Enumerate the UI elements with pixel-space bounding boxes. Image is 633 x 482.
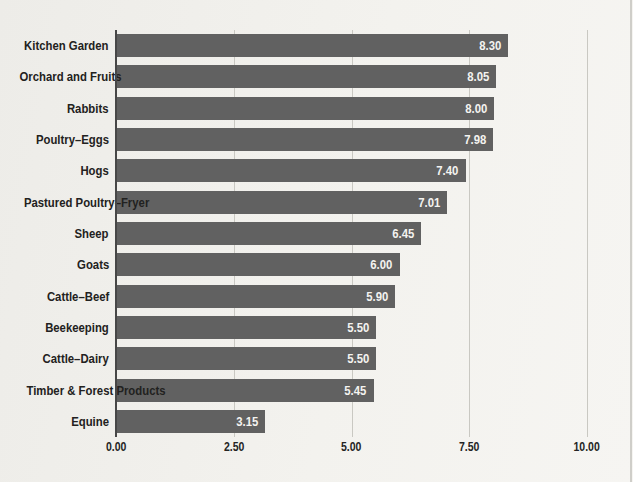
bar-value-label: 8.30 (475, 38, 508, 53)
category-label-text: Poultry–Eggs (36, 132, 109, 147)
bar-row: Hogs7.40 (0, 155, 633, 186)
category-label: Kitchen Garden (0, 38, 117, 53)
bar-row: Cattle–Dairy5.50 (0, 343, 633, 374)
bar-value-label: 8.00 (461, 101, 494, 116)
category-label-text: Cattle–Dairy (43, 351, 109, 366)
bar-row: Beekeeping5.50 (0, 312, 633, 343)
category-label: Equine (0, 414, 117, 429)
bar-value-text: 6.00 (371, 257, 393, 272)
bar-value-text: 5.45 (345, 383, 367, 398)
category-label-text: Timber & Forest Products (26, 383, 165, 398)
bar-chart: Kitchen Garden8.30Orchard and Fruits8.05… (0, 0, 633, 482)
bar-value-text: 5.90 (366, 289, 388, 304)
bar-row: Timber & Forest Products5.45 (0, 374, 633, 405)
bar-row: Goats6.00 (0, 249, 633, 280)
category-label-text: Cattle–Beef (47, 289, 109, 304)
category-label: Cattle–Beef (0, 289, 117, 304)
bar: 7.01 (117, 191, 447, 214)
category-label-text: Orchard and Fruits (19, 69, 121, 84)
bar-value-label: 7.01 (414, 195, 447, 210)
x-tick-label-text: 0.00 (106, 440, 126, 454)
bar-value-label: 5.50 (343, 351, 376, 366)
bar-row: Orchard and Fruits8.05 (0, 61, 633, 92)
category-label-text: Kitchen Garden (25, 38, 109, 53)
x-tick-label-text: 2.50 (224, 440, 244, 454)
bar-value-label: 6.45 (388, 226, 421, 241)
category-label: Timber & Forest Products (0, 383, 117, 398)
bar-value-text: 3.15 (236, 414, 258, 429)
bar-rows: Kitchen Garden8.30Orchard and Fruits8.05… (0, 30, 633, 437)
bar-row: Pastured Poultry–Fryer7.01 (0, 187, 633, 218)
bar-value-text: 7.40 (436, 163, 458, 178)
bar: 5.50 (117, 316, 376, 339)
bar-value-label: 5.50 (343, 320, 376, 335)
bar-value-label: 5.90 (362, 289, 395, 304)
category-label-text: Goats (77, 257, 109, 272)
category-label: Orchard and Fruits (0, 69, 117, 84)
y-axis-line (115, 30, 117, 437)
x-tick-label: 10.00 (557, 440, 617, 454)
category-label: Rabbits (0, 101, 117, 116)
x-tick-label: 7.50 (439, 440, 499, 454)
category-label-text: Equine (71, 414, 109, 429)
bar: 5.90 (117, 285, 395, 308)
bar-value-label: 7.40 (432, 163, 465, 178)
bar-value-label: 5.45 (340, 383, 373, 398)
bar-value-text: 5.50 (347, 320, 369, 335)
x-tick-label-text: 5.00 (341, 440, 361, 454)
category-label-text: Beekeeping (45, 320, 109, 335)
category-label: Poultry–Eggs (0, 132, 117, 147)
x-tick-label: 2.50 (204, 440, 264, 454)
bar-row: Rabbits8.00 (0, 93, 633, 124)
bar-row: Cattle–Beef5.90 (0, 281, 633, 312)
bar-row: Sheep6.45 (0, 218, 633, 249)
bar-value-text: 7.98 (464, 132, 486, 147)
category-label: Beekeeping (0, 320, 117, 335)
bar: 6.45 (117, 222, 421, 245)
category-label-text: Pastured Poultry–Fryer (24, 195, 149, 210)
bar-row: Poultry–Eggs7.98 (0, 124, 633, 155)
category-label: Pastured Poultry–Fryer (0, 195, 117, 210)
bar: 8.00 (117, 97, 494, 120)
bar-value-text: 8.30 (479, 38, 501, 53)
bar-value-label: 7.98 (460, 132, 493, 147)
x-tick-label-text: 10.00 (574, 440, 600, 454)
bar-value-label: 8.05 (463, 69, 496, 84)
category-label: Sheep (0, 226, 117, 241)
bar-value-text: 6.45 (392, 226, 414, 241)
x-tick-label: 5.00 (322, 440, 382, 454)
category-label-text: Sheep (75, 226, 109, 241)
bar-value-text: 7.01 (418, 195, 440, 210)
bar: 8.05 (117, 65, 496, 88)
bar: 8.30 (117, 34, 508, 57)
category-label: Cattle–Dairy (0, 351, 117, 366)
x-tick-label-text: 7.50 (459, 440, 479, 454)
bar: 6.00 (117, 253, 400, 276)
category-label-text: Rabbits (67, 101, 109, 116)
bar-value-label: 3.15 (232, 414, 265, 429)
category-label: Goats (0, 257, 117, 272)
scanned-page: Kitchen Garden8.30Orchard and Fruits8.05… (0, 0, 633, 482)
bar-row: Kitchen Garden8.30 (0, 30, 633, 61)
bar-value-label: 6.00 (366, 257, 399, 272)
category-label: Hogs (0, 163, 117, 178)
bar-value-text: 8.00 (465, 101, 487, 116)
x-tick-label: 0.00 (86, 440, 146, 454)
bar-row: Equine3.15 (0, 406, 633, 437)
bar: 7.40 (117, 159, 466, 182)
bar: 7.98 (117, 128, 493, 151)
bar: 3.15 (117, 410, 265, 433)
bar: 5.50 (117, 347, 376, 370)
bar-value-text: 8.05 (467, 69, 489, 84)
bar-value-text: 5.50 (347, 351, 369, 366)
category-label-text: Hogs (81, 163, 109, 178)
